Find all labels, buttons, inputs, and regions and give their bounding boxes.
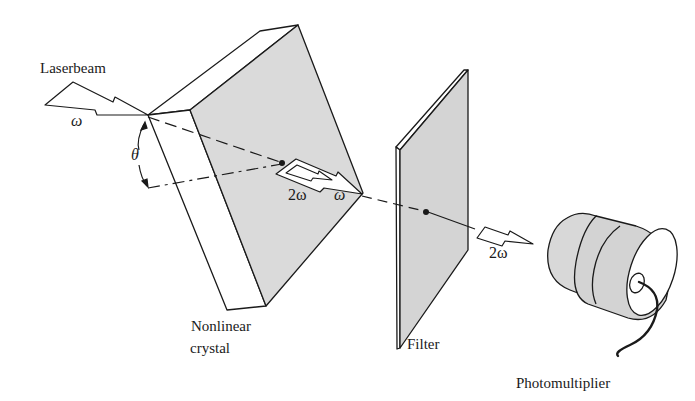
omega-input-label: ω — [71, 112, 82, 130]
nonlinear-crystal — [148, 25, 363, 310]
crystal-label-line1: Nonlinear — [191, 318, 251, 335]
laser-arrow-icon — [45, 82, 148, 115]
photomultiplier-label: Photomultiplier — [516, 375, 610, 392]
laserbeam-label: Laserbeam — [40, 60, 106, 77]
theta-angle-marker — [138, 122, 148, 187]
filter-center-dot — [423, 209, 429, 215]
two-omega-output-label: 2ω — [489, 244, 508, 262]
theta-label: θ — [131, 146, 139, 164]
crystal-label-line2: crystal — [190, 340, 230, 357]
omega-crystal-label: ω — [334, 186, 345, 204]
photomultiplier — [548, 213, 687, 321]
filter-label: Filter — [407, 336, 440, 353]
filter-plate — [396, 70, 468, 349]
two-omega-crystal-label: 2ω — [288, 186, 307, 204]
crystal-center-dot — [279, 160, 285, 166]
